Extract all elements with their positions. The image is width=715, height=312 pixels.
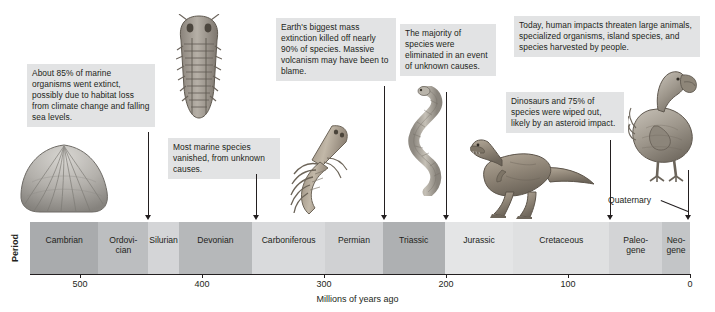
callout-triassic-text: The majority of species were eliminated … <box>405 28 488 71</box>
axis-tick <box>324 274 325 278</box>
axis-tick-label: 400 <box>194 279 209 289</box>
period-label: Cretaceous <box>539 235 583 245</box>
callout-cretaceous-text: Dinosaurs and 75% of species were wiped … <box>511 96 615 128</box>
axis-tick-label: 500 <box>73 279 88 289</box>
axis-tick <box>446 274 447 278</box>
period-label: Jurassic <box>463 235 495 245</box>
period-label: Devonian <box>197 235 233 245</box>
callout-modern-text: Today, human impacts threaten large anim… <box>519 20 692 52</box>
arrowhead-devonian <box>253 215 259 220</box>
period-permian: Permian <box>325 222 382 274</box>
leader-line-ordovician <box>148 132 149 216</box>
period-label: Permian <box>338 235 370 245</box>
period-label: Neo- gene <box>666 235 685 256</box>
period-cretaceous: Cretaceous <box>513 222 609 274</box>
quaternary-leader-line <box>661 200 689 212</box>
quaternary-label: Quaternary <box>608 195 651 205</box>
period-devonian: Devonian <box>179 222 252 274</box>
axis-tick <box>690 274 691 278</box>
period-label: Paleo- gene <box>623 235 648 256</box>
period-paleogene: Paleo- gene <box>609 222 661 274</box>
callout-ordovician-text: About 85% of marine organisms went extin… <box>32 68 149 122</box>
axis-tick-label: 200 <box>438 279 453 289</box>
callout-devonian: Most marine species vanished, from unkno… <box>168 138 280 179</box>
arrowhead-modern <box>685 215 691 220</box>
trilobite-illustration <box>176 14 222 122</box>
period-label: Cambrian <box>46 235 83 245</box>
axis-tick <box>80 274 81 278</box>
axis-tick-label: 100 <box>560 279 575 289</box>
axis-tick-label: 0 <box>687 279 692 289</box>
time-axis-line <box>30 274 690 275</box>
axis-tick-label: 300 <box>316 279 331 289</box>
callout-permian: Earth's biggest mass extinction killed o… <box>276 18 396 81</box>
callout-triassic: The majority of species were eliminated … <box>400 24 496 76</box>
callout-devonian-text: Most marine species vanished, from unkno… <box>173 142 265 174</box>
period-cambrian: Cambrian <box>30 222 98 274</box>
period-jurassic: Jurassic <box>445 222 513 274</box>
leader-line-modern <box>688 170 689 216</box>
axis-tick <box>568 274 569 278</box>
leader-line-permian <box>384 86 385 216</box>
arrowhead-cretaceous <box>607 215 613 220</box>
callout-ordovician: About 85% of marine organisms went extin… <box>27 64 155 127</box>
brachiopod-shell-illustration <box>18 142 110 214</box>
sea-scorpion-illustration <box>282 118 352 216</box>
axis-tick <box>202 274 203 278</box>
callout-cretaceous: Dinosaurs and 75% of species were wiped … <box>506 92 624 133</box>
period-triassic: Triassic <box>383 222 445 274</box>
period-neogene: Neo- gene <box>662 222 690 274</box>
leader-line-devonian <box>256 174 257 216</box>
arrowhead-ordovician <box>145 215 151 220</box>
period-label: Carboniferous <box>262 235 316 245</box>
period-ordovician: Ordovi- cian <box>98 222 148 274</box>
tyrannosaurus-illustration <box>470 138 596 220</box>
snake-illustration <box>400 86 448 196</box>
period-carboniferous: Carboniferous <box>252 222 325 274</box>
callout-permian-text: Earth's biggest mass extinction killed o… <box>281 22 388 76</box>
period-bar: CambrianOrdovi- cianSilurianDevonianCarb… <box>30 222 690 274</box>
period-label: Ordovi- cian <box>109 235 137 256</box>
axis-title: Millions of years ago <box>0 294 715 304</box>
period-label: Silurian <box>149 235 178 245</box>
leader-line-triassic <box>446 92 447 216</box>
arrowhead-permian <box>381 215 387 220</box>
dodo-bird-illustration <box>628 66 700 186</box>
period-silurian: Silurian <box>148 222 179 274</box>
period-row-label: Period <box>6 222 24 274</box>
period-label: Triassic <box>399 235 428 245</box>
arrowhead-triassic <box>443 215 449 220</box>
extinction-timeline-figure: About 85% of marine organisms went extin… <box>0 0 715 312</box>
callout-modern: Today, human impacts threaten large anim… <box>514 16 700 57</box>
